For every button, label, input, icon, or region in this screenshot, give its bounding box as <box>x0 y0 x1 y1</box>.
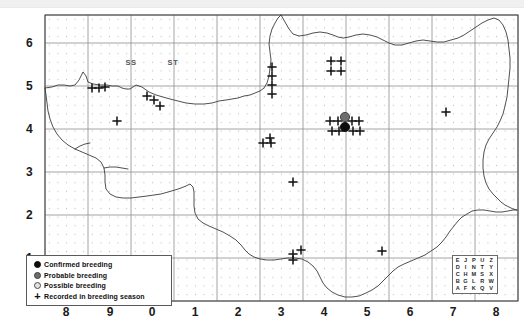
tetrad-key-table: EJPUZDINTYCHMSXBGLRWAFKQV <box>454 257 496 292</box>
x-axis-tick-1: 9 <box>107 306 114 318</box>
y-axis-tick-4: 2 <box>26 209 33 221</box>
x-axis-tick-9: 7 <box>450 306 457 318</box>
tetrad-key-cell-0-4: Z <box>486 257 496 264</box>
filled-black-circle-icon <box>31 261 44 268</box>
tetrad-key-cell-3-0: B <box>454 278 461 285</box>
x-axis-tick-5: 3 <box>278 306 285 318</box>
tetrad-key-cell-1-2: N <box>470 264 479 271</box>
tetrad-key-cell-0-1: J <box>461 257 469 264</box>
marker-confirmed-0 <box>340 122 349 131</box>
tetrad-key-cell-0-2: P <box>470 257 479 264</box>
x-axis-tick-6: 4 <box>321 306 328 318</box>
tetrad-key-cell-2-0: C <box>454 271 461 278</box>
legend-label-recorded: Recorded in breeding season <box>44 293 145 300</box>
x-axis-tick-4: 2 <box>235 306 242 318</box>
tetrad-key-row-0: EJPUZ <box>454 257 496 264</box>
tetrad-key-cell-0-3: U <box>478 257 486 264</box>
tetrad-key-cell-4-0: A <box>454 285 461 292</box>
x-axis-tick-2: 0 <box>149 306 156 318</box>
grid-square-label-st: ST <box>168 58 179 67</box>
tetrad-key-row-1: DINTY <box>454 264 496 271</box>
tetrad-key-cell-4-1: F <box>461 285 469 292</box>
tetrad-key-cell-2-2: M <box>470 271 479 278</box>
marker-probable-0 <box>340 112 349 121</box>
y-axis-tick-2: 4 <box>26 123 33 135</box>
tetrad-key-cell-1-3: T <box>478 264 486 271</box>
y-axis-tick-0: 6 <box>26 37 33 49</box>
map-legend: Confirmed breeding Probable breeding Pos… <box>26 255 172 306</box>
y-axis-tick-3: 3 <box>26 166 33 178</box>
legend-item-possible: Possible breeding <box>31 281 167 291</box>
tetrad-key-cell-4-4: V <box>486 285 496 292</box>
x-axis-tick-3: 1 <box>192 306 199 318</box>
tetrad-key-cell-4-2: K <box>470 285 479 292</box>
tetrad-key-cell-2-1: H <box>461 271 469 278</box>
legend-item-recorded: + Recorded in breeding season <box>31 291 167 301</box>
x-axis-tick-8: 6 <box>407 306 414 318</box>
tetrad-key-cell-3-3: R <box>478 278 486 285</box>
x-axis-tick-7: 5 <box>364 306 371 318</box>
tetrad-letter-key: EJPUZDINTYCHMSXBGLRWAFKQV <box>452 255 498 294</box>
filled-grey-circle-icon <box>31 272 44 279</box>
tetrad-key-cell-1-1: I <box>461 264 469 271</box>
grid-square-label-ss: SS <box>125 58 136 67</box>
legend-item-confirmed: Confirmed breeding <box>31 260 167 270</box>
tetrad-key-cell-4-3: Q <box>478 285 486 292</box>
tetrad-key-cell-3-1: G <box>461 278 469 285</box>
legend-label-probable: Probable breeding <box>44 272 107 279</box>
tetrad-key-row-2: CHMSX <box>454 271 496 278</box>
tetrad-key-row-4: AFKQV <box>454 285 496 292</box>
tetrad-key-cell-2-4: X <box>486 271 496 278</box>
tetrad-key-cell-1-0: D <box>454 264 461 271</box>
legend-label-confirmed: Confirmed breeding <box>44 261 112 268</box>
tetrad-key-cell-0-0: E <box>454 257 461 264</box>
x-axis-tick-0: 8 <box>63 306 70 318</box>
tetrad-key-row-3: BGLRW <box>454 278 496 285</box>
x-axis-tick-10: 8 <box>493 306 500 318</box>
tetrad-key-cell-1-4: Y <box>486 264 496 271</box>
legend-item-probable: Probable breeding <box>31 270 167 280</box>
distribution-map: SSST 89012345678 654321 Confirmed breedi… <box>0 0 524 325</box>
legend-label-possible: Possible breeding <box>44 282 106 289</box>
tetrad-key-cell-3-4: W <box>486 278 496 285</box>
tetrad-key-cell-2-3: S <box>478 271 486 278</box>
plus-icon: + <box>31 293 44 300</box>
tetrad-key-cell-3-2: L <box>470 278 479 285</box>
open-circle-icon <box>31 282 44 289</box>
y-axis-tick-1: 5 <box>26 80 33 92</box>
